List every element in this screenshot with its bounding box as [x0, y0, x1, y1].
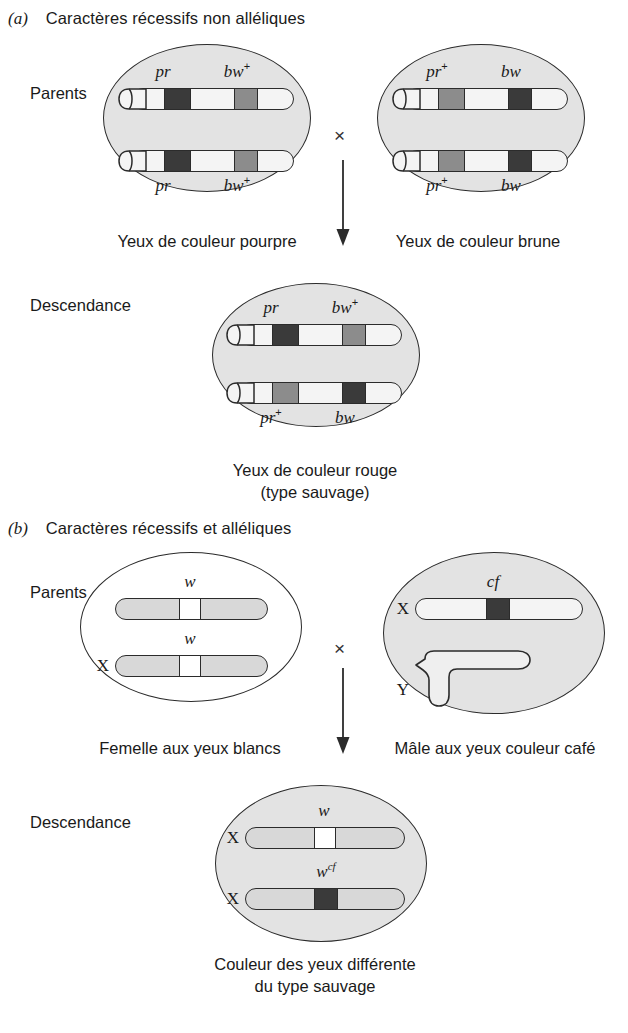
allele-band-bw-plus [234, 151, 258, 171]
allele-label-bw-offspring-top: bw+ [332, 296, 358, 318]
allele-band-cf [486, 599, 510, 619]
allele-band-bw [342, 383, 366, 403]
cell-offspring-a [212, 283, 420, 427]
chromosome-parent-brown-top [392, 88, 568, 110]
chromosome-offspring-b-top [245, 827, 405, 849]
chromosome-male-y [413, 650, 533, 716]
allele-label-w-offspring: w [318, 799, 329, 821]
centromere-icon [392, 88, 418, 110]
allele-label-pr-offspring-bottom: pr+ [260, 406, 282, 428]
centromere-icon [226, 324, 252, 346]
allele-band-bw-plus [342, 325, 366, 345]
allele-band-bw-plus [234, 89, 258, 109]
cross-symbol-a: × [334, 125, 345, 147]
allele-label-bw-bottom-right: bw [501, 174, 521, 196]
allele-band-pr-plus [438, 151, 465, 171]
chromosome-label-x-male: X [397, 599, 409, 619]
panel-b-header: (b) Caractères récessifs et alléliques [8, 519, 291, 539]
cross-symbol-b: × [334, 638, 345, 660]
chromosome-female-x-top [115, 598, 268, 620]
centromere-icon [392, 150, 418, 172]
allele-band-w [179, 656, 201, 676]
panel-a-parents-label: Parents [30, 84, 87, 103]
panel-b-parents-label: Parents [30, 583, 87, 602]
panel-a-offspring-label: Descendance [30, 296, 131, 315]
panel-a-title: Caractères récessifs non alléliques [46, 9, 305, 28]
panel-b-offspring-label: Descendance [30, 813, 131, 832]
allele-band-bw [508, 89, 532, 109]
caption-offspring-a: Yeux de couleur rouge (type sauvage) [233, 461, 398, 502]
centromere-icon [226, 382, 252, 404]
chromosome-parent-purple-top [118, 88, 294, 110]
panel-a-letter: (a) [8, 9, 28, 29]
allele-label-w-female-bottom: w [184, 627, 195, 649]
allele-label-pr-top-left: pr [155, 60, 170, 82]
chromosome-offspring-a-top [226, 324, 402, 346]
allele-band-pr [272, 325, 299, 345]
chromosome-label-x-offspring-bottom: X [227, 889, 239, 909]
inheritance-arrow-b [330, 668, 356, 760]
chromosome-parent-purple-bottom [118, 150, 294, 172]
allele-label-w-female-top: w [184, 570, 195, 592]
caption-parent-female: Femelle aux yeux blancs [99, 739, 281, 758]
allele-band-w [314, 828, 336, 848]
caption-parent-male: Mâle aux yeux couleur café [395, 739, 596, 758]
allele-label-w-cf-offspring: wcf [316, 860, 335, 882]
chromosome-female-x-bottom [115, 655, 268, 677]
chromosome-parent-brown-bottom [392, 150, 568, 172]
allele-band-pr [164, 151, 191, 171]
inheritance-arrow-a [330, 160, 356, 252]
chromosome-offspring-b-bottom [245, 888, 405, 910]
allele-label-bw-top-left: bw+ [224, 60, 250, 82]
allele-label-cf: cf [487, 570, 499, 592]
allele-band-bw [508, 151, 532, 171]
caption-offspring-b: Couleur des yeux différente du type sauv… [214, 955, 416, 996]
allele-band-w [179, 599, 201, 619]
allele-band-pr-plus [438, 89, 465, 109]
chromosome-offspring-a-bottom [226, 382, 402, 404]
chromosome-label-y-male: Y [397, 680, 409, 700]
chromosome-male-x [415, 598, 583, 620]
allele-label-pr-top-right: pr+ [426, 60, 448, 82]
allele-label-pr-offspring-top: pr [263, 296, 278, 318]
allele-band-pr [164, 89, 191, 109]
allele-band-pr-plus [272, 383, 299, 403]
centromere-icon [118, 150, 144, 172]
allele-label-bw-top-right: bw [501, 60, 521, 82]
panel-b-letter: (b) [8, 519, 28, 539]
allele-label-bw-offspring-bottom: bw [335, 406, 355, 428]
panel-b-title: Caractères récessifs et alléliques [46, 519, 292, 538]
allele-label-pr-bottom-left: pr [155, 174, 170, 196]
allele-label-pr-bottom-right: pr+ [426, 174, 448, 196]
allele-band-w-cf [314, 889, 338, 909]
caption-parent-purple: Yeux de couleur pourpre [117, 232, 296, 251]
chromosome-label-x-female: X [97, 656, 109, 676]
panel-a-header: (a) Caractères récessifs non alléliques [8, 9, 305, 29]
centromere-icon [118, 88, 144, 110]
allele-label-bw-bottom-left: bw+ [224, 174, 250, 196]
chromosome-label-x-offspring-top: X [227, 828, 239, 848]
caption-parent-brown: Yeux de couleur brune [396, 232, 561, 251]
